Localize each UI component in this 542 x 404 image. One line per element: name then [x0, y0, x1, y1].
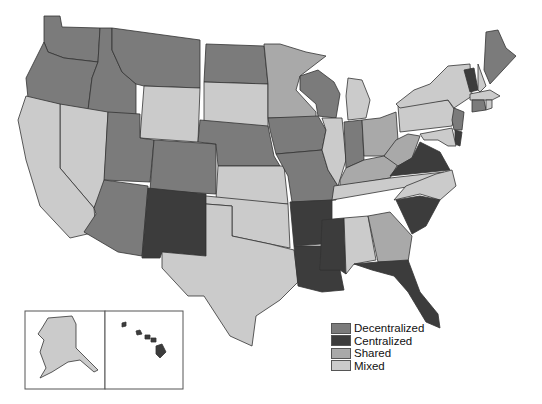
legend-swatch [331, 323, 351, 334]
state-md [420, 128, 456, 146]
state-in [344, 120, 364, 168]
state-wy [140, 86, 200, 142]
state-ny [396, 64, 472, 108]
legend-label: Decentralized [354, 322, 424, 334]
us-map [0, 0, 542, 404]
legend-label: Mixed [354, 360, 385, 372]
state-ma [470, 90, 500, 100]
state-nd [204, 44, 268, 84]
state-ri [486, 100, 492, 110]
legend-label: Shared [354, 347, 391, 359]
inset-hawaii-frame [105, 311, 183, 389]
legend-swatch [331, 360, 351, 371]
state-nj [452, 108, 464, 130]
state-nm [142, 188, 206, 258]
legend-item-shared: Shared [331, 347, 424, 360]
state-ct [472, 100, 486, 112]
state-de [455, 130, 462, 146]
legend-item-mixed: Mixed [331, 360, 424, 373]
state-co [150, 140, 216, 194]
legend: Decentralized Centralized Shared Mixed [331, 322, 424, 372]
legend-label: Centralized [354, 335, 412, 347]
legend-item-decentralized: Decentralized [331, 322, 424, 335]
legend-item-centralized: Centralized [331, 335, 424, 348]
state-ms [320, 218, 346, 274]
state-fl [354, 260, 440, 328]
legend-swatch [331, 348, 351, 359]
state-ia [268, 116, 326, 154]
state-mi [346, 78, 370, 120]
contiguous-states [18, 16, 516, 346]
legend-swatch [331, 335, 351, 346]
state-me [484, 30, 516, 84]
